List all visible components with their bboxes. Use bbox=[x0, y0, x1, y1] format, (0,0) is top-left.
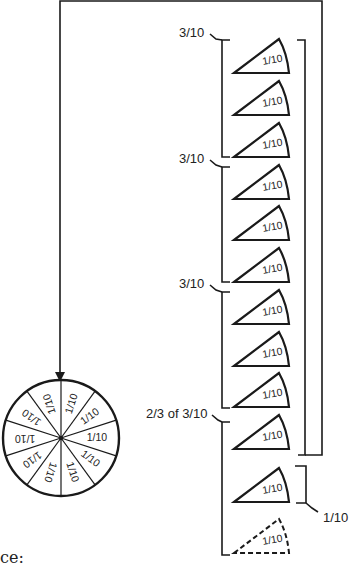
pie-center bbox=[59, 436, 63, 440]
pie-slice-label: 1/10 bbox=[87, 431, 108, 443]
bracket-ten-tenths bbox=[297, 40, 305, 455]
bracket-label-4: 2/3 of 3/10 bbox=[146, 406, 207, 421]
wedge-stack: 1/101/101/101/101/101/101/101/101/101/10… bbox=[234, 39, 289, 553]
bracket-group-4: 2/3 of 3/10 bbox=[146, 406, 230, 555]
bracket-group-1: 3/10 bbox=[179, 25, 230, 157]
fraction-diagram: 1/101/101/101/101/101/101/101/101/101/10… bbox=[0, 0, 351, 565]
bracket-label-1: 3/10 bbox=[179, 25, 204, 40]
pie-slice-label: 1/10 bbox=[15, 433, 36, 445]
cut-off-text: ce: bbox=[0, 548, 24, 565]
bracket-label-2: 3/10 bbox=[179, 151, 204, 166]
bracket-group-3: 3/10 bbox=[179, 276, 230, 408]
bracket-group-5: 1/10 bbox=[295, 466, 348, 525]
bracket-label-5: 1/10 bbox=[323, 510, 348, 525]
bracket-label-3: 3/10 bbox=[179, 276, 204, 291]
bracket-group-2: 3/10 bbox=[179, 151, 230, 282]
pie-chart: 1/101/101/101/101/101/101/101/101/101/10 bbox=[3, 380, 119, 496]
